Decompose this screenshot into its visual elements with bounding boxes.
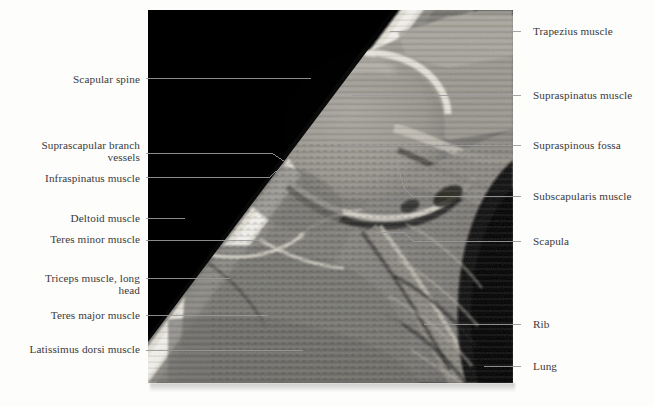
label-trapezius-muscle: Trapezius muscle [533,25,654,37]
label-deltoid-muscle: Deltoid muscle [0,212,140,224]
label-latissimus-dorsi-muscle: Latissimus dorsi muscle [0,343,140,355]
label-scapular-spine: Scapular spine [0,73,140,85]
label-supraspinous-fossa: Supraspinous fossa [533,139,654,151]
label-infraspinatus-muscle: Infraspinatus muscle [0,172,140,184]
label-suprascapular-branch-vessels: Suprascapular branch vessels [0,139,140,164]
figure-stage: Scapular spine Suprascapular branch vess… [0,0,654,406]
label-scapula: Scapula [533,235,654,247]
mri-image [148,10,513,383]
label-teres-major-muscle: Teres major muscle [0,309,140,321]
label-supraspinatus-muscle: Supraspinatus muscle [533,89,654,101]
label-triceps-muscle-long-head: Triceps muscle, long head [0,272,140,297]
label-lung: Lung [533,360,654,372]
image-drop-shadow [150,383,515,392]
label-rib: Rib [533,318,654,330]
label-teres-minor-muscle: Teres minor muscle [0,233,140,245]
label-subscapularis-muscle: Subscapularis muscle [533,190,654,202]
